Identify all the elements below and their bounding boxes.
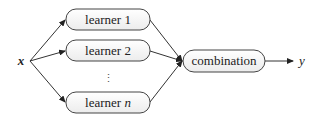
output-y-label: y (297, 54, 307, 67)
learner-n-index: n (124, 95, 131, 110)
edge-learnern-combination (150, 61, 182, 102)
learner-n-prefix: learner (85, 95, 121, 110)
ensemble-diagram: x learner 1 learner 2 ⋮ learner n combin… (0, 0, 319, 124)
edge-learner1-combination (150, 20, 182, 61)
learner-1-prefix: learner (85, 12, 121, 27)
learner-2-index: 2 (124, 43, 131, 58)
edge-x-learner2 (30, 51, 65, 61)
learner-2-prefix: learner (85, 43, 121, 58)
learner-2-label: learner 2 (66, 44, 150, 57)
learner-1-label: learner 1 (66, 13, 150, 26)
edge-learner2-combination (150, 51, 182, 61)
learner-1-index: 1 (124, 12, 131, 27)
diagram-edges (0, 0, 319, 124)
ellipsis: ⋮ (66, 73, 150, 84)
learner-n-label: learner n (66, 96, 150, 109)
edge-x-learnern (30, 61, 65, 102)
combination-label: combination (183, 54, 265, 67)
edge-x-learner1 (30, 20, 65, 61)
input-x-label: x (15, 54, 27, 67)
